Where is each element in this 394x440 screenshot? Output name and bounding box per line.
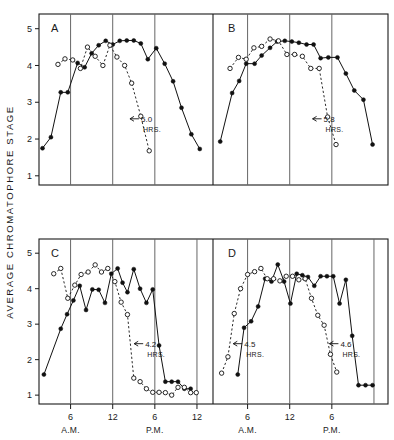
data-point-open bbox=[176, 385, 180, 389]
data-point-open bbox=[244, 57, 248, 61]
data-point-open bbox=[119, 300, 123, 304]
data-point-open bbox=[292, 52, 296, 56]
data-point-filled bbox=[326, 55, 330, 59]
data-point-open bbox=[317, 66, 321, 70]
data-point-filled bbox=[97, 288, 101, 292]
data-point-open bbox=[278, 279, 282, 283]
data-point-filled bbox=[260, 54, 264, 58]
data-point-open bbox=[73, 283, 77, 287]
x-axis: 6126126126A.M.P.M.A.M.P.M. bbox=[61, 404, 340, 435]
data-point-open bbox=[106, 266, 110, 270]
data-point-filled bbox=[176, 380, 180, 384]
figure-root: 12345A5.0HRS.B5.8HRS.12345C4.2HRS.D4.5HR… bbox=[0, 0, 394, 440]
data-point-filled bbox=[297, 41, 301, 45]
data-point-filled bbox=[146, 57, 150, 61]
y-tick-label: 2 bbox=[27, 355, 32, 365]
data-point-filled bbox=[171, 79, 175, 83]
data-point-filled bbox=[163, 62, 167, 66]
data-point-filled bbox=[138, 287, 142, 291]
annotation-unit: HRS. bbox=[342, 351, 360, 358]
data-point-filled bbox=[180, 106, 184, 110]
data-point-filled bbox=[49, 135, 53, 139]
annotation-unit: HRS. bbox=[143, 126, 161, 133]
data-point-filled bbox=[125, 38, 129, 42]
data-point-open bbox=[66, 296, 70, 300]
data-point-open bbox=[138, 379, 142, 383]
data-point-open bbox=[85, 45, 89, 49]
data-point-open bbox=[226, 355, 230, 359]
data-point-filled bbox=[319, 56, 323, 60]
data-point-filled bbox=[283, 39, 287, 43]
data-point-filled bbox=[83, 65, 87, 69]
data-point-filled bbox=[132, 267, 136, 271]
data-point-open bbox=[182, 385, 186, 389]
data-point-open bbox=[169, 393, 173, 397]
data-point-open bbox=[236, 55, 240, 59]
data-point-open bbox=[322, 323, 326, 327]
data-point-open bbox=[125, 312, 129, 316]
data-point-filled bbox=[125, 290, 129, 294]
data-point-filled bbox=[66, 90, 70, 94]
data-point-filled bbox=[288, 302, 292, 306]
data-point-filled bbox=[350, 334, 354, 338]
panel-A: A5.0HRS. bbox=[41, 14, 202, 185]
data-point-open bbox=[228, 66, 232, 70]
data-point-filled bbox=[78, 284, 82, 288]
data-point-open bbox=[316, 313, 320, 317]
panel-C: C4.2HRS. bbox=[42, 239, 199, 404]
y-tick-label: 3 bbox=[27, 319, 32, 329]
data-point-filled bbox=[132, 38, 136, 42]
data-point-filled bbox=[42, 373, 46, 377]
panel-row-AB: 12345A5.0HRS.B5.8HRS. bbox=[27, 14, 388, 185]
data-point-open bbox=[101, 63, 105, 67]
data-point-filled bbox=[230, 91, 234, 95]
data-point-filled bbox=[312, 284, 316, 288]
x-tick-label: 6 bbox=[68, 412, 73, 422]
data-point-open bbox=[132, 376, 136, 380]
panel-label-B: B bbox=[228, 22, 235, 34]
data-point-open bbox=[252, 46, 256, 50]
data-point-open bbox=[56, 62, 60, 66]
data-point-filled bbox=[163, 380, 167, 384]
annotation-unit: HRS. bbox=[246, 351, 264, 358]
data-point-open bbox=[163, 390, 167, 394]
panel-label-A: A bbox=[51, 22, 59, 34]
data-point-filled bbox=[276, 263, 280, 267]
x-period-label: P.M. bbox=[323, 425, 341, 435]
data-point-open bbox=[86, 270, 90, 274]
annotation-value: 5.8 bbox=[324, 115, 336, 124]
data-point-open bbox=[157, 390, 161, 394]
data-point-filled bbox=[364, 383, 368, 387]
data-point-open bbox=[303, 277, 307, 281]
data-point-open bbox=[71, 58, 75, 62]
data-point-filled bbox=[256, 304, 260, 308]
series-line-dashed bbox=[222, 268, 337, 373]
data-point-filled bbox=[352, 88, 356, 92]
y-tick-label: 1 bbox=[27, 171, 32, 181]
panel-row-CD: 12345C4.2HRS.D4.5HRS.4.6HRS. bbox=[27, 239, 388, 404]
series-line-solid bbox=[238, 265, 373, 386]
annotation-value: 4.2 bbox=[145, 340, 157, 349]
data-point-filled bbox=[325, 274, 329, 278]
data-point-open bbox=[284, 274, 288, 278]
data-point-open bbox=[309, 66, 313, 70]
data-point-filled bbox=[371, 143, 375, 147]
data-point-filled bbox=[242, 326, 246, 330]
data-point-filled bbox=[139, 41, 143, 45]
x-tick-label: 6 bbox=[152, 412, 157, 422]
data-point-filled bbox=[319, 274, 323, 278]
annotation-unit: HRS. bbox=[147, 351, 165, 358]
data-point-filled bbox=[312, 43, 316, 47]
data-point-filled bbox=[198, 147, 202, 151]
data-point-filled bbox=[253, 62, 257, 66]
data-point-open bbox=[108, 43, 112, 47]
data-point-open bbox=[271, 277, 275, 281]
x-period-label: A.M. bbox=[61, 425, 80, 435]
data-point-filled bbox=[249, 319, 253, 323]
y-tick-label: 4 bbox=[27, 61, 32, 71]
data-point-filled bbox=[90, 287, 94, 291]
data-point-filled bbox=[121, 281, 125, 285]
data-point-filled bbox=[104, 39, 108, 43]
data-point-open bbox=[147, 149, 151, 153]
panel-label-D: D bbox=[228, 247, 236, 259]
